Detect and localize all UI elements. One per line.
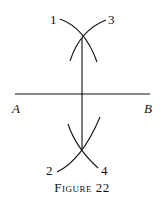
label-2: 2 [46, 164, 53, 177]
arc-1 [60, 19, 97, 62]
arc-3 [70, 20, 106, 61]
label-a: A [12, 102, 20, 115]
construction-diagram [0, 0, 164, 203]
label-1: 1 [50, 13, 57, 26]
label-3: 3 [108, 13, 115, 26]
label-4: 4 [101, 164, 108, 177]
label-b: B [144, 102, 152, 115]
figure-caption: Figure 22 [0, 180, 164, 196]
